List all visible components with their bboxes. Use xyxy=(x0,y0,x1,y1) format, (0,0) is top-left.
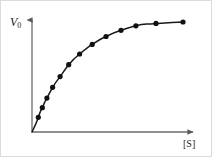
data-point xyxy=(77,51,82,56)
data-point xyxy=(44,96,49,101)
figure-container: V0 [S] xyxy=(0,0,212,157)
data-point xyxy=(90,42,95,47)
data-point xyxy=(40,105,45,110)
data-point xyxy=(153,21,158,26)
y-axis-label-subscript: 0 xyxy=(17,21,21,30)
data-point xyxy=(36,115,41,120)
x-axis-label: [S] xyxy=(183,139,195,149)
data-point xyxy=(50,85,55,90)
data-point xyxy=(133,23,138,28)
y-axis-label: V0 xyxy=(10,16,21,30)
data-point xyxy=(103,34,108,39)
data-point xyxy=(58,74,63,79)
plot-area xyxy=(1,1,212,157)
data-point xyxy=(66,62,71,67)
data-point xyxy=(118,28,123,33)
data-point xyxy=(180,19,185,24)
